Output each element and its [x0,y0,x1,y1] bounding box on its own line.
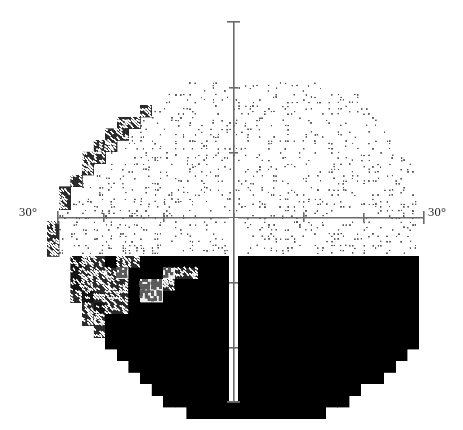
visual-field-canvas [0,0,463,430]
axis-label-left-30deg: 30° [19,205,37,220]
axis-label-right-30deg: 30° [428,205,446,220]
visual-field-grayscale-plot: 30° 30° [0,0,463,430]
